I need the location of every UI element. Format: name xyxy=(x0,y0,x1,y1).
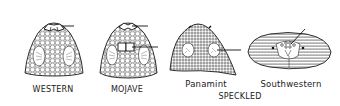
label-western: WESTERN xyxy=(33,85,74,94)
label-panamint: Panamint xyxy=(185,79,227,89)
mojave-head-drawing xyxy=(100,23,158,78)
western-head-drawing xyxy=(25,23,83,76)
label-southwestern: Southwestern xyxy=(260,79,321,89)
southwestern-head-drawing xyxy=(248,29,331,69)
label-mojave: MOJAVE xyxy=(111,85,143,94)
label-speckled-group: SPECKLED xyxy=(218,92,261,101)
panamint-head-drawing xyxy=(170,24,241,75)
